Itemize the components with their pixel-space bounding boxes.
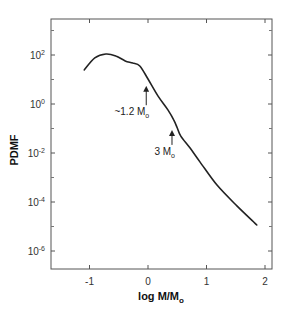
x-axis: -1012 <box>85 19 268 287</box>
pdmf-curve <box>84 54 257 225</box>
annotation-label: 3 Mo <box>154 146 175 159</box>
pdmf-chart: -1012 10210010-210-410-6 ~1.2 Mo3 Mo log… <box>0 0 287 315</box>
plot-frame <box>51 19 272 269</box>
y-tick-label: 100 <box>30 98 45 110</box>
y-axis: 10210010-210-410-6 <box>28 31 272 258</box>
y-tick-label: 10-4 <box>28 196 45 208</box>
y-tick-label: 10-2 <box>28 147 45 159</box>
x-tick-label: 0 <box>145 276 151 287</box>
x-tick-label: 1 <box>204 276 210 287</box>
y-axis-title: PDMF <box>8 134 20 165</box>
annotations: ~1.2 Mo3 Mo <box>114 89 175 159</box>
y-tick-label: 10-6 <box>28 245 45 257</box>
x-axis-title: log M/Mo <box>138 290 184 305</box>
annotation-label: ~1.2 Mo <box>114 106 149 119</box>
y-tick-label: 102 <box>30 49 45 61</box>
x-tick-label: 2 <box>262 276 268 287</box>
x-tick-label: -1 <box>85 276 94 287</box>
